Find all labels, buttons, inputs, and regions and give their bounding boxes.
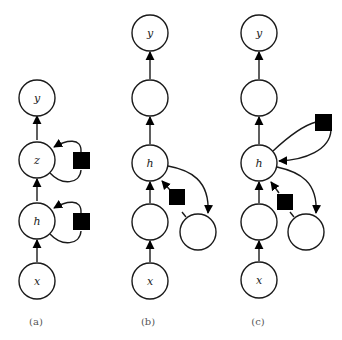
loop-z-upper [54, 141, 81, 152]
caption-b: (b) [141, 316, 155, 327]
edge-square-h [271, 182, 279, 193]
node-hidden-upper [132, 80, 168, 116]
node-label-y: y [146, 27, 154, 40]
edge-square-h [162, 181, 170, 190]
node-label-h: h [33, 215, 40, 228]
node-label-x: x [147, 275, 154, 288]
delay-square-h [73, 213, 90, 230]
delay-square-z [73, 152, 90, 169]
loop-h-out [273, 122, 316, 151]
node-label-z: z [33, 154, 40, 167]
loop-h-lower [50, 231, 81, 243]
caption-c: (c) [251, 316, 265, 327]
node-memory [180, 214, 216, 250]
node-hidden-lower [132, 204, 168, 240]
panel-a: y z h x (a) [19, 80, 90, 327]
caption-a: (a) [29, 316, 43, 327]
node-memory [288, 214, 324, 250]
loop-z-lower [50, 170, 81, 182]
edge-m-square [182, 212, 186, 217]
edge-m-square [290, 212, 294, 217]
node-label-y: y [33, 92, 41, 105]
node-label-y: y [255, 27, 263, 40]
loop-h-upper [54, 202, 81, 213]
node-hidden-lower [241, 204, 277, 240]
node-hidden-upper [241, 80, 277, 116]
panel-c: y h x (c) [241, 15, 332, 327]
rnn-graph-figure: y z h x (a) y h x (b) [0, 0, 342, 340]
delay-square-bottom [277, 194, 293, 210]
node-label-h: h [255, 157, 262, 170]
node-label-h: h [146, 157, 153, 170]
delay-square-top [315, 114, 332, 131]
node-label-x: x [256, 274, 263, 287]
delay-square [169, 189, 185, 205]
loop-h-in [279, 130, 331, 161]
panel-b: y h x (b) [132, 15, 216, 327]
node-label-x: x [34, 275, 41, 288]
